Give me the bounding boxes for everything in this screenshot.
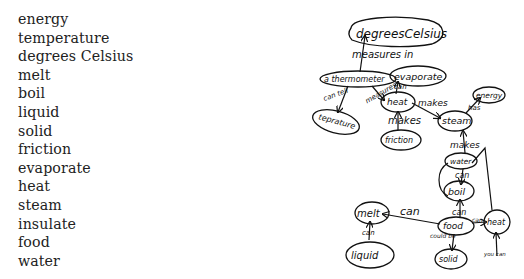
svg-text:food: food: [443, 221, 463, 231]
svg-text:can tell: can tell: [322, 87, 349, 103]
svg-text:evaporate: evaporate: [394, 71, 443, 82]
node-energy: energy: [473, 87, 505, 103]
svg-text:can: can: [452, 208, 466, 217]
svg-text:energy: energy: [476, 91, 503, 100]
svg-text:can: can: [472, 216, 483, 223]
svg-text:degreesCelsius: degreesCelsius: [356, 27, 447, 41]
word-item: degrees Celsius: [18, 47, 133, 66]
svg-text:melt: melt: [357, 208, 381, 219]
svg-text:solid: solid: [439, 255, 459, 264]
svg-text:heat: heat: [387, 97, 408, 107]
node-water: water: [445, 153, 477, 169]
vocabulary-word-list: energy temperature degrees Celsius melt …: [18, 10, 133, 270]
svg-text:makes: makes: [450, 140, 480, 150]
svg-text:measures in: measures in: [352, 49, 413, 60]
svg-text:can: can: [362, 229, 375, 237]
word-item: evaporate: [18, 159, 133, 178]
word-item: steam: [18, 196, 133, 215]
word-item: food: [18, 233, 133, 252]
svg-text:heat: heat: [487, 218, 506, 227]
word-item: temperature: [18, 29, 133, 48]
svg-text:makes: makes: [418, 98, 448, 108]
svg-text:liquid: liquid: [351, 250, 379, 261]
word-item: insulate: [18, 215, 133, 234]
svg-text:has: has: [468, 104, 481, 112]
word-item: friction: [18, 140, 133, 159]
svg-text:can: can: [400, 205, 420, 218]
word-item: boil: [18, 84, 133, 103]
node-melt: melt: [355, 202, 389, 224]
svg-text:can: can: [455, 171, 469, 180]
node-steam: steam: [438, 111, 472, 131]
node-thermometer: a thermometer: [320, 71, 396, 87]
word-item: heat: [18, 177, 133, 196]
word-item: solid: [18, 122, 133, 141]
word-item: water: [18, 252, 133, 271]
svg-text:makes: makes: [388, 115, 421, 126]
svg-text:can: can: [394, 83, 407, 91]
node-solid: solid: [435, 249, 467, 269]
node-liquid: liquid: [346, 242, 394, 268]
svg-text:a thermometer: a thermometer: [324, 75, 385, 84]
svg-text:water: water: [450, 157, 472, 166]
svg-text:steam: steam: [442, 115, 472, 126]
node-heat-2: heat: [484, 210, 510, 234]
word-item: melt: [18, 66, 133, 85]
word-item: energy: [18, 10, 133, 29]
word-item: liquid: [18, 103, 133, 122]
node-temperature: teprature: [310, 105, 362, 139]
svg-text:you can: you can: [483, 251, 506, 258]
svg-text:friction: friction: [385, 136, 413, 145]
hand-drawn-concept-map: degreesCelsius a thermometer evaporate t…: [300, 0, 524, 279]
svg-text:could be: could be: [430, 232, 456, 239]
node-boil: boil: [444, 181, 474, 201]
svg-text:boil: boil: [448, 186, 465, 197]
node-friction: friction: [381, 130, 421, 150]
node-heat: heat: [381, 92, 415, 112]
